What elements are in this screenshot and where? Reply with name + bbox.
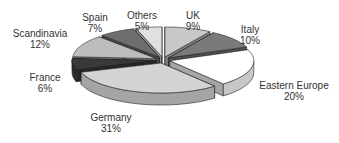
label-eastern-europe-name: Eastern Europe: [252, 80, 336, 91]
label-others-name: Others: [120, 10, 164, 21]
label-spain-name: Spain: [78, 12, 112, 23]
label-france-name: France: [22, 72, 68, 83]
label-eastern-europe-pct: 20%: [252, 91, 336, 102]
label-france-pct: 6%: [22, 83, 68, 94]
label-uk: UK 9%: [176, 10, 210, 32]
label-italy-name: Italy: [230, 24, 270, 35]
label-spain: Spain 7%: [78, 12, 112, 34]
label-eastern-europe: Eastern Europe 20%: [252, 80, 336, 102]
label-others-pct: 5%: [120, 21, 164, 32]
label-germany-name: Germany: [78, 112, 144, 123]
label-italy: Italy 10%: [230, 24, 270, 46]
label-italy-pct: 10%: [230, 35, 270, 46]
label-uk-pct: 9%: [176, 21, 210, 32]
label-uk-name: UK: [176, 10, 210, 21]
label-scandinavia: Scandinavia 12%: [8, 28, 72, 50]
label-others: Others 5%: [120, 10, 164, 32]
label-spain-pct: 7%: [78, 23, 112, 34]
label-scandinavia-name: Scandinavia: [8, 28, 72, 39]
label-france: France 6%: [22, 72, 68, 94]
label-germany: Germany 31%: [78, 112, 144, 134]
label-scandinavia-pct: 12%: [8, 39, 72, 50]
label-germany-pct: 31%: [78, 123, 144, 134]
